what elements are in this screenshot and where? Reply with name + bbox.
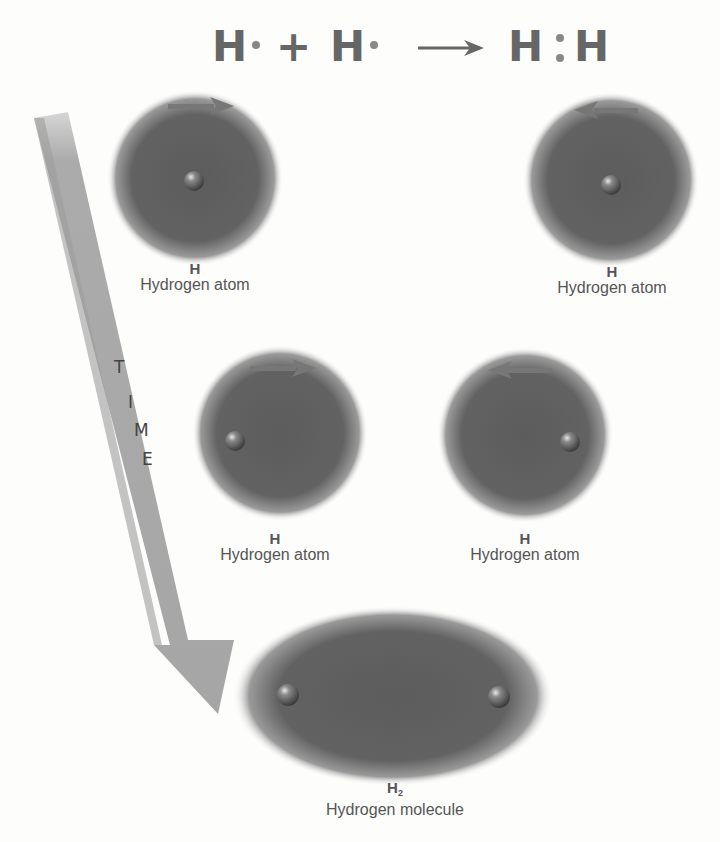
hydrogen-atom-1: [107, 90, 283, 266]
atom-label-2: H Hydrogen atom: [527, 264, 697, 297]
time-letter-t: T: [114, 357, 124, 377]
atom-symbol: H: [110, 261, 280, 276]
atom-symbol: H: [527, 264, 697, 279]
time-letter-m: M: [134, 420, 149, 440]
hydrogen-atom-2: [523, 92, 699, 268]
atom-label-3: H Hydrogen atom: [190, 531, 360, 564]
atom-name: Hydrogen atom: [190, 546, 360, 564]
hydrogen-atom-4: [437, 347, 613, 523]
hydrogen-atom-3: [192, 345, 368, 521]
atom-label-1: H Hydrogen atom: [110, 261, 280, 294]
molecule-symbol: H2: [290, 780, 500, 801]
molecule-name: Hydrogen molecule: [290, 801, 500, 819]
time-letter-i: I: [128, 392, 133, 412]
atom-symbol: H: [190, 531, 360, 546]
hydrogen-molecule: [233, 606, 553, 786]
atom-name: Hydrogen atom: [110, 276, 280, 294]
atom-name: Hydrogen atom: [527, 279, 697, 297]
atom-symbol: H: [440, 531, 610, 546]
diagram-graphics: [0, 0, 720, 842]
atom-label-4: H Hydrogen atom: [440, 531, 610, 564]
molecule-label: H2 Hydrogen molecule: [290, 780, 500, 819]
time-letter-e: E: [142, 449, 153, 469]
atom-name: Hydrogen atom: [440, 546, 610, 564]
